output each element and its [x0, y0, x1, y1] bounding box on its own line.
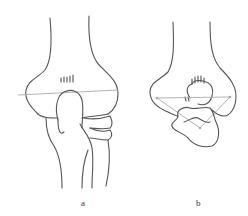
- panel-label-b: b: [196, 198, 201, 208]
- panel-a-drawing: [18, 16, 118, 188]
- figure-canvas: [0, 0, 248, 216]
- panel-label-a: a: [81, 198, 85, 208]
- panel-b-drawing: [150, 22, 236, 147]
